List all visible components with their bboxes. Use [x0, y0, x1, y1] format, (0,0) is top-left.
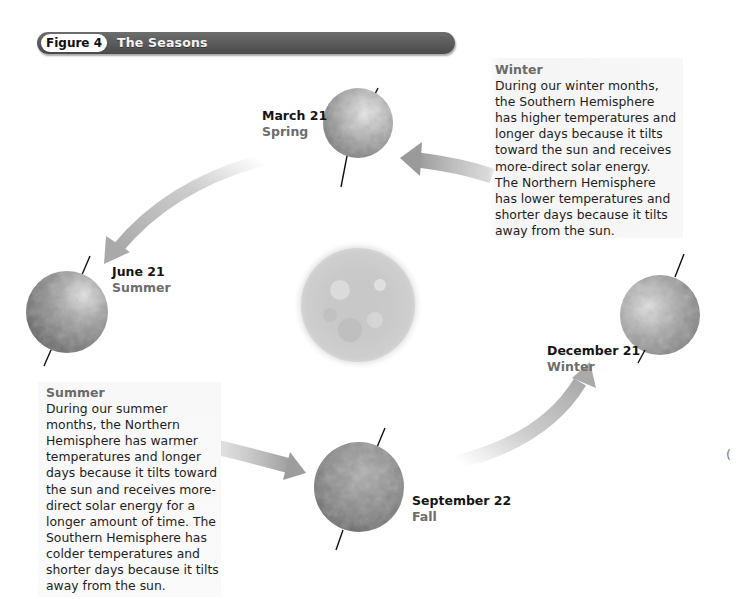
winter-box-line: the Southern Hemisphere	[495, 94, 683, 110]
winter-box-line: shorter days because it tilts	[495, 207, 683, 223]
orbit-arrow-icon	[400, 142, 492, 176]
summer-box-title: Summer	[46, 385, 221, 401]
earth-globe-icon	[323, 88, 393, 187]
summer-explanation-box: Summer During our summer months, the Nor…	[38, 382, 221, 597]
winter-explanation-box: Winter During our winter months, the Sou…	[488, 58, 683, 238]
summer-box-line: days because it tilts toward	[46, 465, 221, 481]
summer-box-line: colder temperatures and	[46, 546, 221, 562]
earth-globe-icon	[26, 256, 108, 366]
edge-mark: (	[726, 447, 731, 462]
summer-box-line: the sun and receives more-	[46, 482, 221, 498]
summer-box-line: direct solar energy for a	[46, 498, 221, 514]
winter-box-line: During our winter months,	[495, 78, 683, 94]
summer-box-line: away from the sun.	[46, 578, 221, 594]
position-season: Spring	[262, 124, 327, 140]
summer-box-line: longer amount of time. The	[46, 514, 221, 530]
earth-globe-icon	[314, 428, 404, 550]
position-label-december: December 21 Winter	[547, 343, 640, 375]
winter-box-line: longer days because it tilts	[495, 126, 683, 142]
position-label-september: September 22 Fall	[412, 493, 511, 525]
winter-box-line: has lower temperatures and	[495, 191, 683, 207]
summer-box-line: shorter days because it tilts	[46, 562, 221, 578]
winter-box-line: has higher temperatures and	[495, 110, 683, 126]
position-date: June 21	[112, 264, 171, 280]
winter-box-line: away from the sun.	[495, 223, 683, 239]
position-label-march: March 21 Spring	[262, 108, 327, 140]
summer-box-line: Southern Hemisphere has	[46, 530, 221, 546]
summer-box-line: During our summer	[46, 401, 221, 417]
winter-box-line: The Northern Hemisphere	[495, 175, 683, 191]
position-date: December 21	[547, 343, 640, 359]
position-season: Fall	[412, 509, 511, 525]
winter-box-title: Winter	[495, 62, 683, 78]
sun-icon	[294, 241, 422, 369]
orbit-arrow-icon	[216, 447, 306, 480]
position-season: Winter	[547, 359, 640, 375]
winter-box-line: toward the sun and receives	[495, 142, 683, 158]
summer-box-line: Hemisphere has warmer	[46, 433, 221, 449]
position-date: March 21	[262, 108, 327, 124]
position-date: September 22	[412, 493, 511, 509]
summer-box-line: months, the Northern	[46, 417, 221, 433]
position-season: Summer	[112, 280, 171, 296]
winter-box-line: more-direct solar energy.	[495, 159, 683, 175]
position-label-june: June 21 Summer	[112, 264, 171, 296]
summer-box-line: temperatures and longer	[46, 449, 221, 465]
orbit-arrow-icon	[458, 362, 596, 462]
orbit-arrow-icon	[104, 160, 262, 264]
